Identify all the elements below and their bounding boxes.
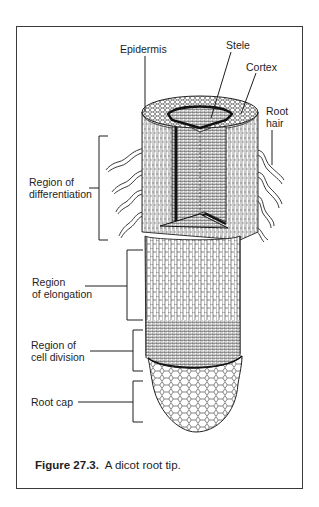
root-tip-illustration [0,0,319,507]
root-hairs-left [106,148,146,238]
label-elongation-line2: of elongation [32,288,92,300]
label-stele: Stele [226,39,250,51]
root-cap-bracket [78,381,143,422]
root-hairs-right [254,150,284,242]
label-differentiation-line1: Region of [29,176,74,188]
label-root-hair-line2: hair [266,117,284,129]
label-epidermis: Epidermis [120,43,167,55]
elongation-bracket [85,250,143,320]
label-root-cap: Root cap [31,396,73,408]
label-cell-division-line1: Region of [31,339,76,351]
label-root-hair-line1: Root [266,105,288,117]
label-differentiation-line2: differentiation [29,188,92,200]
label-cortex: Cortex [246,61,277,73]
figure-number: Figure 27.3. [35,459,99,471]
figure-caption: Figure 27.3. A dicot root tip. [35,459,181,471]
cell-division-bracket [90,330,143,371]
figure-caption-text: A dicot root tip. [105,459,181,471]
label-cell-division-line2: cell division [31,351,85,363]
label-elongation-line1: Region [32,276,65,288]
